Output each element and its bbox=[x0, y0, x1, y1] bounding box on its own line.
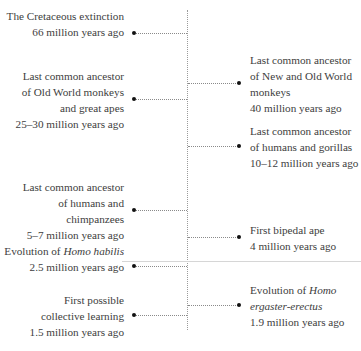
event-title-line: of Old World monkeys bbox=[16, 84, 124, 100]
event-old-world-great-apes: Last common ancestor of Old World monkey… bbox=[16, 68, 124, 132]
species-name: Homo habilis bbox=[63, 245, 124, 257]
connector-humans-chimpanzees bbox=[134, 210, 187, 211]
marker-dot-humans-chimpanzees bbox=[132, 208, 136, 212]
event-date: 66 million years ago bbox=[7, 24, 124, 40]
event-title-line: ergaster-erectus bbox=[250, 298, 344, 314]
event-date: 4 million years ago bbox=[250, 238, 336, 254]
event-collective-learning: First possible collective learning 1.5 m… bbox=[30, 292, 124, 340]
event-title-line: and great apes bbox=[16, 100, 124, 116]
marker-dot-collective-learning bbox=[132, 313, 136, 317]
title-prefix: Evolution of bbox=[250, 284, 309, 296]
event-title: The Cretaceous extinction bbox=[7, 8, 124, 24]
event-humans-gorillas: Last common ancestor of humans and goril… bbox=[250, 123, 358, 171]
connector-new-old-world-monkeys bbox=[188, 83, 238, 84]
event-title-line: collective learning bbox=[30, 308, 124, 324]
connector-collective-learning bbox=[134, 315, 187, 316]
connector-humans-gorillas bbox=[188, 146, 238, 147]
event-homo-habilis: Evolution of Homo habilis 2.5 million ye… bbox=[4, 243, 124, 275]
event-cretaceous: The Cretaceous extinction 66 million yea… bbox=[7, 8, 124, 40]
divider-line bbox=[122, 261, 361, 262]
event-title-line: of humans and gorillas bbox=[250, 139, 358, 155]
event-title: Evolution of Homo bbox=[250, 282, 344, 298]
species-name: ergaster-erectus bbox=[250, 300, 322, 312]
event-homo-ergaster-erectus: Evolution of Homo ergaster-erectus 1.9 m… bbox=[250, 282, 344, 330]
event-title-line: Last common ancestor bbox=[23, 179, 124, 195]
event-title-line: chimpanzees bbox=[23, 211, 124, 227]
event-date: 1.9 million years ago bbox=[250, 314, 344, 330]
event-title-line: First possible bbox=[30, 292, 124, 308]
event-humans-chimpanzees: Last common ancestor of humans and chimp… bbox=[23, 179, 124, 243]
event-title-line: Last common ancestor bbox=[16, 68, 124, 84]
connector-homo-ergaster-erectus bbox=[188, 305, 238, 306]
marker-dot-new-old-world-monkeys bbox=[237, 81, 241, 85]
marker-dot-homo-ergaster-erectus bbox=[237, 303, 241, 307]
event-title: Evolution of Homo habilis bbox=[4, 243, 124, 259]
species-genus: Homo bbox=[309, 284, 336, 296]
connector-homo-habilis bbox=[134, 266, 187, 267]
marker-dot-bipedal-ape bbox=[237, 235, 241, 239]
event-title-line: of humans and bbox=[23, 195, 124, 211]
event-title-line: monkeys bbox=[250, 84, 352, 100]
event-date: 5–7 million years ago bbox=[23, 227, 124, 243]
event-new-old-world-monkeys: Last common ancestor of New and Old Worl… bbox=[250, 52, 352, 116]
timeline-axis bbox=[187, 10, 188, 330]
connector-bipedal-ape bbox=[188, 237, 238, 238]
marker-dot-cretaceous bbox=[132, 31, 136, 35]
event-title-line: of New and Old World bbox=[250, 68, 352, 84]
marker-dot-homo-habilis bbox=[132, 264, 136, 268]
event-title: First bipedal ape bbox=[250, 222, 336, 238]
title-prefix: Evolution of bbox=[4, 245, 63, 257]
marker-dot-humans-gorillas bbox=[237, 144, 241, 148]
connector-old-world-great-apes bbox=[134, 99, 187, 100]
event-date: 2.5 million years ago bbox=[4, 259, 124, 275]
event-title-line: Last common ancestor bbox=[250, 52, 352, 68]
connector-cretaceous bbox=[134, 33, 187, 34]
marker-dot-old-world-great-apes bbox=[132, 97, 136, 101]
event-bipedal-ape: First bipedal ape 4 million years ago bbox=[250, 222, 336, 254]
event-date: 10–12 million years ago bbox=[250, 155, 358, 171]
event-title-line: Last common ancestor bbox=[250, 123, 358, 139]
event-date: 40 million years ago bbox=[250, 100, 352, 116]
event-date: 25–30 million years ago bbox=[16, 116, 124, 132]
event-date: 1.5 million years ago bbox=[30, 324, 124, 340]
